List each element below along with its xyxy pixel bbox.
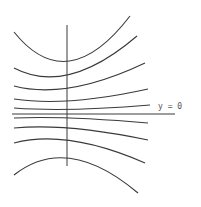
curve-4 (14, 89, 148, 101)
curve-6 (14, 118, 148, 123)
curve-2 (14, 36, 137, 77)
curve-5 (14, 105, 150, 109)
hyperbolic-flow-diagram: y = 0 (0, 0, 201, 207)
curve-7 (14, 127, 148, 140)
curve-9 (14, 158, 138, 193)
curve-8 (14, 139, 145, 163)
curve-3 (14, 63, 145, 90)
label-y-equals-0: y = 0 (158, 102, 182, 111)
curve-family (14, 16, 150, 193)
